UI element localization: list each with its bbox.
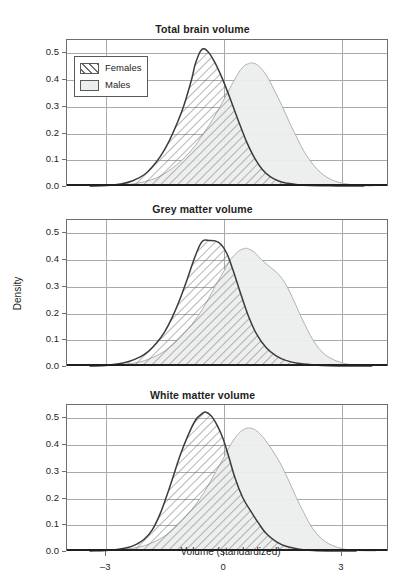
y-axis-title: Density: [12, 264, 23, 324]
y-tick-mark: [62, 286, 66, 287]
y-tick-mark: [62, 366, 66, 367]
y-tick-mark: [62, 259, 66, 260]
y-tick-label: 0.5: [46, 226, 59, 237]
y-tick-label: 0.3: [46, 280, 59, 291]
y-tick-mark: [62, 313, 66, 314]
density-area-females: [90, 412, 357, 551]
y-tick-label: 0.2: [46, 492, 59, 503]
density-curves: [67, 220, 387, 365]
y-tick-label: 0.1: [46, 153, 59, 164]
x-tick-label: –3: [85, 561, 125, 572]
plot-area: [66, 219, 388, 366]
plot-area: [66, 404, 388, 551]
y-tick-label: 0.5: [46, 46, 59, 57]
x-axis-baseline: [67, 184, 387, 186]
y-tick-label: 0.5: [46, 411, 59, 422]
panel-title: Total brain volume: [0, 23, 405, 35]
density-curves: [67, 405, 387, 550]
x-axis-title: Volume (standardized): [28, 546, 405, 557]
y-tick-mark: [62, 498, 66, 499]
y-tick-label: 0.4: [46, 73, 59, 84]
panel-title: Grey matter volume: [0, 203, 405, 215]
x-tick-label: 0: [203, 561, 243, 572]
legend-label: Males: [105, 80, 130, 90]
y-tick-label: 0.1: [46, 518, 59, 529]
y-tick-mark: [62, 339, 66, 340]
y-tick-label: 0.1: [46, 333, 59, 344]
density-plot-figure: Total brain volume0.00.10.20.30.40.5Fema…: [0, 0, 405, 580]
y-tick-label: 0.0: [46, 180, 59, 191]
y-tick-mark: [62, 524, 66, 525]
y-tick-mark: [62, 186, 66, 187]
y-tick-label: 0.4: [46, 438, 59, 449]
y-tick-label: 0.3: [46, 465, 59, 476]
y-tick-mark: [62, 444, 66, 445]
x-tick-label: 3: [321, 561, 361, 572]
legend-item[interactable]: Males: [80, 78, 141, 92]
legend-label: Females: [105, 63, 141, 73]
legend-item[interactable]: Females: [80, 61, 141, 75]
y-tick-mark: [62, 417, 66, 418]
y-tick-label: 0.0: [46, 360, 59, 371]
y-tick-mark: [62, 79, 66, 80]
x-axis-baseline: [67, 364, 387, 366]
y-tick-mark: [62, 232, 66, 233]
panel-title: White matter volume: [0, 389, 405, 401]
y-tick-label: 0.2: [46, 307, 59, 318]
y-tick-mark: [62, 52, 66, 53]
legend-swatch-females: [80, 63, 99, 74]
y-tick-mark: [62, 159, 66, 160]
y-tick-label: 0.2: [46, 127, 59, 138]
y-tick-mark: [62, 106, 66, 107]
legend: FemalesMales: [74, 56, 148, 97]
legend-swatch-males: [80, 80, 99, 91]
y-tick-label: 0.3: [46, 100, 59, 111]
y-tick-mark: [62, 471, 66, 472]
y-tick-mark: [62, 133, 66, 134]
y-tick-label: 0.4: [46, 253, 59, 264]
